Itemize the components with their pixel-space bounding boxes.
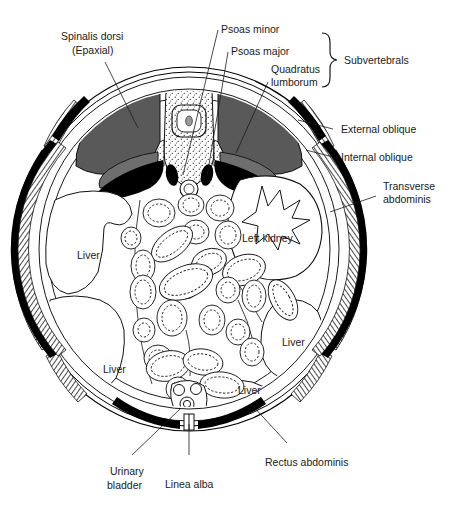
label-urinary-line2: bladder xyxy=(107,479,143,491)
liver-lobe-upper-left xyxy=(46,191,132,294)
intestine-loop xyxy=(215,221,241,249)
intestine-loop xyxy=(178,194,204,216)
intestine-loop xyxy=(242,280,266,312)
label-urinary-line1: Urinary xyxy=(110,465,145,477)
abdominal-cross-section-figure: Spinalis dorsi (Epaxial) Psoas minor Pso… xyxy=(0,0,457,517)
label-spinalis-dorsi: Spinalis dorsi xyxy=(61,30,123,42)
label-left-kidney: Left kidney xyxy=(242,232,294,244)
intestine-loop xyxy=(121,227,141,249)
label-psoas-major: Psoas major xyxy=(231,45,290,57)
urinary-bladder xyxy=(171,380,207,416)
intestine-loop xyxy=(133,318,155,342)
label-transverse-line2: abdominis xyxy=(383,193,431,205)
label-liver-lower-left: Liver xyxy=(103,363,126,375)
label-subvertebrals: Subvertebrals xyxy=(344,54,409,66)
label-liver-bottom: Liver xyxy=(238,384,261,396)
label-liver-upper-left: Liver xyxy=(77,249,100,261)
label-internal-oblique: Internal oblique xyxy=(341,151,413,163)
label-spinalis-dorsi-sub: (Epaxial) xyxy=(72,44,113,56)
intestine-loop xyxy=(240,338,264,366)
label-psoas-minor: Psoas minor xyxy=(221,23,280,35)
subvertebrals-brace xyxy=(322,33,337,87)
label-quadratus-line2: lumborum xyxy=(271,76,318,88)
aorta-lumen xyxy=(184,184,194,194)
intestine-loop xyxy=(143,199,175,227)
label-quadratus-line1: Quadratus xyxy=(271,63,320,75)
label-rectus-abdominis: Rectus abdominis xyxy=(265,456,348,468)
viscera xyxy=(46,176,324,421)
cord-center xyxy=(186,116,193,126)
label-linea-alba: Linea alba xyxy=(165,478,214,490)
intestine-loop xyxy=(216,277,240,303)
intestine-loop xyxy=(206,195,234,221)
label-liver-right: Liver xyxy=(282,336,305,348)
label-external-oblique: External oblique xyxy=(341,123,416,135)
intestine-loop xyxy=(130,275,156,309)
intestine-loop xyxy=(199,305,225,335)
intestine-loop xyxy=(157,300,187,336)
label-transverse-line1: Transverse xyxy=(383,180,435,192)
